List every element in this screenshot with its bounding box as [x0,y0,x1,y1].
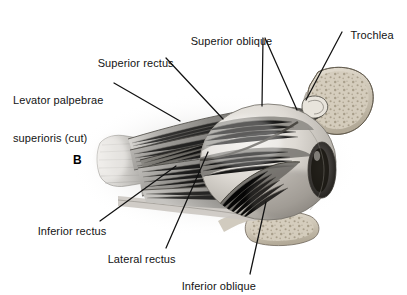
label-inferior-oblique: Inferior oblique [169,267,256,295]
label-superior-rectus-line1: Superior rectus [98,57,174,69]
anatomy-figure: Superior oblique Trochlea Superior rectu… [0,0,407,295]
label-inferior-rectus-line1: Inferior rectus [38,225,107,237]
label-superior-oblique-line1: Superior oblique [191,35,273,47]
label-lateral-rectus-line1: Lateral rectus [108,253,176,265]
label-levator-line1: Levator palpebrae [13,94,103,107]
panel-letter-b: B [73,153,82,167]
label-superior-oblique: Superior oblique [178,22,272,60]
label-levator-palpebrae-superioris: Levator palpebrae superioris (cut) [13,69,103,169]
cornea [308,142,336,198]
label-lateral-rectus: Lateral rectus [95,240,176,278]
label-levator-line2: superioris (cut) [13,132,103,145]
label-trochlea-line1: Trochlea [350,29,393,41]
label-inferior-oblique-line1: Inferior oblique [182,280,256,292]
label-trochlea: Trochlea [338,16,394,54]
